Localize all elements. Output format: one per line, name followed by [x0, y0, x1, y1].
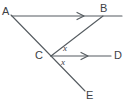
angle-label-upper: x — [63, 44, 67, 53]
geometry-diagram: A B C D E x x — [0, 0, 128, 108]
segment-c-e-line — [51, 56, 85, 91]
point-label-a: A — [2, 6, 9, 17]
point-label-e: E — [86, 90, 93, 101]
point-label-d: D — [114, 50, 122, 61]
diagram-canvas — [0, 0, 128, 108]
segment-a-c-line — [11, 15, 51, 56]
angle-label-lower: x — [61, 58, 65, 67]
point-label-c: C — [35, 50, 43, 61]
point-label-b: B — [100, 3, 107, 14]
segment-c-b-line — [51, 16, 103, 56]
